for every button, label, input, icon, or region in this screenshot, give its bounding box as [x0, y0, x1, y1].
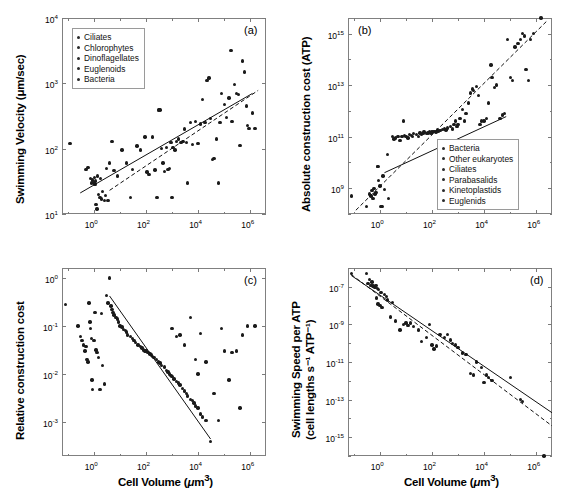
- panel-c-xlabel: Cell Volume (μm3): [118, 472, 213, 488]
- legend-item: Euglenoids: [77, 64, 139, 75]
- panel-a-legend: CiliatesChlorophytesDinoflagellatesEugle…: [72, 28, 145, 89]
- legend-marker-icon: [442, 199, 445, 202]
- legend-marker-icon: [442, 189, 445, 192]
- legend-item-label: Euglenids: [449, 196, 486, 207]
- legend-item: Ciliates: [77, 32, 139, 43]
- legend-marker-icon: [442, 168, 445, 171]
- panel-c-ylabel: Relative construction cost: [14, 301, 26, 440]
- trend-line-solid: [351, 275, 552, 412]
- legend-item-label: Kinetoplastids: [449, 185, 501, 196]
- legend-marker-icon: [77, 36, 80, 39]
- panel-label-b: (b): [358, 24, 371, 36]
- panel-label-d: (d): [530, 274, 543, 286]
- legend-item-label: Chlorophytes: [84, 43, 133, 54]
- panel-label-c: (c): [244, 274, 257, 286]
- panel-a-ylabel: Swimming Velocity (μm/sec): [14, 55, 26, 204]
- panel-d-ylabel-line2: (cell lengths s⁻¹ ATP⁻¹): [303, 320, 317, 440]
- panel-b-legend: BacteriaOther eukaryotesCiliatesParabasa…: [437, 139, 519, 210]
- legend-item-label: Other eukaryotes: [449, 154, 513, 165]
- legend-item: Euglenids: [442, 196, 513, 207]
- legend-item-label: Ciliates: [449, 164, 476, 175]
- legend-item: Parabasalids: [442, 175, 513, 186]
- legend-item: Ciliates: [442, 164, 513, 175]
- legend-item-label: Parabasalids: [449, 175, 497, 186]
- legend-item: Bacteria: [77, 74, 139, 85]
- figure-four-panel-scatter: 1001021041061011021031041001021041061091…: [0, 0, 573, 499]
- legend-item-label: Bacteria: [84, 74, 115, 85]
- trend-line-dashed: [351, 275, 552, 426]
- legend-marker-icon: [77, 46, 80, 49]
- legend-item: Chlorophytes: [77, 43, 139, 54]
- legend-item: Kinetoplastids: [442, 185, 513, 196]
- legend-item-label: Ciliates: [84, 32, 111, 43]
- legend-item-label: Dinoflagellates: [84, 53, 139, 64]
- legend-item: Bacteria: [442, 143, 513, 154]
- legend-marker-icon: [77, 78, 80, 81]
- legend-item-label: Euglenoids: [84, 64, 125, 75]
- legend-marker-icon: [77, 67, 80, 70]
- panel-d-ylabel-line1: Swimming Speed per ATP: [290, 301, 302, 438]
- legend-marker-icon: [442, 147, 445, 150]
- legend-item-label: Bacteria: [449, 143, 480, 154]
- panel-label-a: (a): [244, 24, 257, 36]
- panel-d-xlabel: Cell Volume (μm3): [404, 472, 499, 488]
- legend-item: Other eukaryotes: [442, 154, 513, 165]
- legend-marker-icon: [442, 178, 445, 181]
- panel-b-ylabel: Absolute construction cost (ATP): [300, 37, 312, 212]
- legend-marker-icon: [77, 57, 80, 60]
- legend-marker-icon: [442, 157, 445, 160]
- legend-item: Dinoflagellates: [77, 53, 139, 64]
